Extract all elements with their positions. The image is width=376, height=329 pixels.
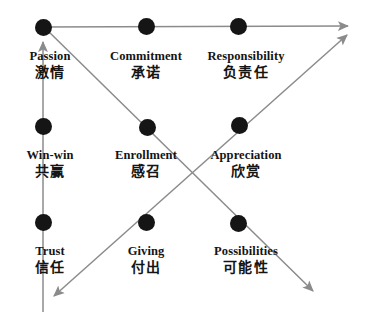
label-appreciation-zh: 欣赏 <box>210 164 281 179</box>
label-appreciation-en: Appreciation <box>210 149 281 163</box>
node-giving[interactable] <box>138 214 155 231</box>
label-trust-zh: 信任 <box>35 260 66 275</box>
node-passion[interactable] <box>35 19 52 36</box>
label-responsibility: Responsibility 负责任 <box>207 50 284 80</box>
node-commitment[interactable] <box>138 18 155 35</box>
label-enrollment-en: Enrollment <box>115 149 177 163</box>
label-giving-en: Giving <box>128 245 165 259</box>
diagram-canvas: Passion 激情 Commitment 承诺 Responsibility … <box>0 0 376 329</box>
label-commitment-zh: 承诺 <box>110 65 182 80</box>
label-trust: Trust 信任 <box>35 245 66 275</box>
label-winwin: Win-win 共赢 <box>26 149 73 179</box>
label-possibilities: Possibilities 可能性 <box>214 245 278 275</box>
label-winwin-en: Win-win <box>26 149 73 163</box>
node-responsibility[interactable] <box>230 18 247 35</box>
label-passion-zh: 激情 <box>30 65 71 80</box>
label-responsibility-en: Responsibility <box>207 50 284 64</box>
node-enrollment[interactable] <box>139 119 156 136</box>
arrow-horizontal-top <box>40 26 348 27</box>
node-possibilities[interactable] <box>230 215 247 232</box>
label-enrollment: Enrollment 感召 <box>115 149 177 179</box>
label-commitment: Commitment 承诺 <box>110 50 182 80</box>
node-appreciation[interactable] <box>231 117 248 134</box>
node-trust[interactable] <box>35 214 52 231</box>
arrow-diagonal-ascending <box>54 35 347 296</box>
label-responsibility-zh: 负责任 <box>207 65 284 80</box>
label-possibilities-en: Possibilities <box>214 245 278 259</box>
label-giving-zh: 付出 <box>128 260 165 275</box>
label-winwin-zh: 共赢 <box>26 164 73 179</box>
label-commitment-en: Commitment <box>110 50 182 64</box>
label-passion: Passion 激情 <box>30 50 71 80</box>
label-enrollment-zh: 感召 <box>115 164 177 179</box>
label-giving: Giving 付出 <box>128 245 165 275</box>
node-winwin[interactable] <box>35 118 52 135</box>
label-possibilities-zh: 可能性 <box>214 260 278 275</box>
label-trust-en: Trust <box>35 245 66 259</box>
label-appreciation: Appreciation 欣赏 <box>210 149 281 179</box>
label-passion-en: Passion <box>30 50 71 64</box>
